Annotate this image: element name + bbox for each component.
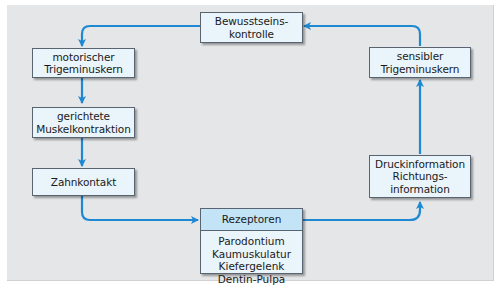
rezeptor-item: Parodontium xyxy=(201,235,302,248)
node-bewusstseinskontrolle: Bewusstseins- kontrolle xyxy=(200,12,303,43)
node-motorischer-trigeminuskern: motorischer Trigeminuskern xyxy=(32,48,135,78)
rezeptor-item: Dentin-Pulpa xyxy=(201,273,302,286)
node-label: Bewusstseins- xyxy=(215,15,288,28)
node-label: Richtungs- xyxy=(393,170,448,183)
node-label: Muskelkontraktion xyxy=(36,123,130,136)
node-label: information xyxy=(390,183,450,196)
node-label: motorischer xyxy=(52,51,114,64)
arrow-zahnkontakt-to-rezeptoren xyxy=(82,196,198,220)
node-druckinformation: Druckinformation Richtungs- information xyxy=(369,155,471,198)
node-zahnkontakt: Zahnkontakt xyxy=(32,168,135,196)
node-gerichtete-muskelkontraktion: gerichtete Muskelkontraktion xyxy=(32,107,135,138)
arrow-sensibel-to-bewusstsein xyxy=(304,26,420,46)
rezeptor-item: Kiefergelenk xyxy=(201,260,302,273)
node-sensibler-trigeminuskern: sensibler Trigeminuskern xyxy=(369,47,471,78)
arrow-rezeptoren-to-druck xyxy=(303,202,420,220)
node-label: gerichtete xyxy=(57,110,110,123)
arrow-bewusstsein-to-motorisch xyxy=(82,26,200,46)
node-rezeptoren: Rezeptoren Parodontium Kaumuskulatur Kie… xyxy=(200,208,303,274)
node-label: Trigeminuskern xyxy=(44,63,123,76)
rezeptor-item: Kaumuskulatur xyxy=(201,248,302,261)
rezeptoren-items: Parodontium Kaumuskulatur Kiefergelenk D… xyxy=(201,231,302,285)
node-label: kontrolle xyxy=(229,28,274,41)
node-label: Zahnkontakt xyxy=(51,176,116,189)
rezeptoren-title: Rezeptoren xyxy=(201,209,302,231)
node-label: sensibler xyxy=(397,50,443,63)
node-label: Trigeminuskern xyxy=(381,63,460,76)
node-label: Druckinformation xyxy=(375,158,465,171)
